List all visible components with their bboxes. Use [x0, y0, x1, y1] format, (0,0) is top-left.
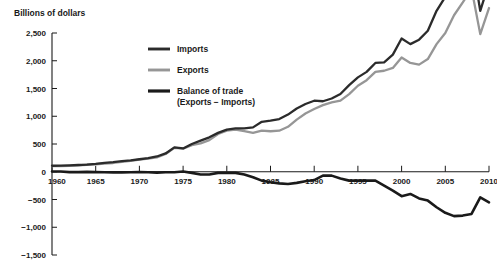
y-axis-title: Billions of dollars — [14, 8, 86, 18]
y-tick-label: 0 — [42, 168, 47, 177]
chart-container: Billions of dollars 2,5002,0001,5001,000… — [0, 0, 497, 267]
trade-balance-line-chart: Billions of dollars 2,5002,0001,5001,000… — [0, 0, 497, 267]
x-tick-label: 1965 — [87, 177, 105, 186]
legend-label: Exports — [177, 65, 209, 75]
y-tick-label: 2,500 — [26, 29, 47, 38]
legend-sublabel: (Exports − Imports) — [177, 97, 255, 107]
x-tick-label: 2000 — [393, 177, 411, 186]
y-tick-label: 500 — [33, 140, 47, 149]
x-tick-label: 1960 — [48, 177, 66, 186]
legend-label: Balance of trade — [177, 86, 243, 96]
x-tick-label: 2010 — [480, 177, 497, 186]
x-tick-label: 2005 — [436, 177, 454, 186]
y-tick-label: −1,500 — [21, 251, 46, 260]
y-tick-label: −500 — [28, 196, 47, 205]
x-tick-label: 1980 — [218, 177, 236, 186]
chart-background — [0, 0, 497, 267]
x-tick-label: 1970 — [131, 177, 149, 186]
y-tick-label: 1,000 — [26, 112, 47, 121]
legend-label: Imports — [177, 44, 208, 54]
y-tick-label: 2,000 — [26, 57, 47, 66]
y-tick-label: 1,500 — [26, 85, 47, 94]
x-tick-label: 1975 — [174, 177, 192, 186]
y-tick-label: −1,000 — [21, 223, 46, 232]
